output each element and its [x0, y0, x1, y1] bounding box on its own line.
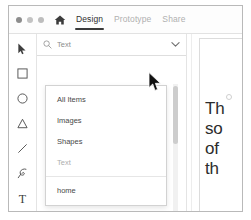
tab-design[interactable]: Design [76, 14, 103, 25]
title-bar: Design Prototype Share [9, 6, 242, 34]
artboard-text-line: Th [205, 99, 224, 119]
filter-dropdown-menu: All Items Images Shapes Text home [45, 85, 167, 206]
close-dot[interactable] [16, 17, 22, 23]
window-body: T Text [9, 34, 242, 211]
screenshot-root: Design Prototype Share [0, 0, 251, 220]
window-controls [16, 17, 44, 23]
menu-item-home[interactable]: home [46, 180, 166, 201]
artboard-text-line: of [205, 139, 224, 159]
artboard[interactable]: Th so of th [199, 38, 242, 211]
artboard-handle[interactable] [226, 94, 232, 100]
menu-item-images[interactable]: Images [46, 110, 166, 131]
panel-scrollbar[interactable] [173, 84, 178, 212]
home-icon[interactable] [53, 13, 67, 27]
pointer-tool[interactable] [15, 41, 30, 56]
design-canvas[interactable]: Th so of th [187, 34, 242, 211]
minimize-dot[interactable] [27, 17, 33, 23]
artboard-text-block[interactable]: Th so of th [205, 99, 224, 179]
search-bar[interactable]: Text [37, 34, 186, 56]
chevron-down-icon[interactable] [171, 40, 180, 49]
search-input[interactable]: Text [57, 40, 171, 49]
tab-prototype[interactable]: Prototype [114, 14, 151, 25]
tab-share[interactable]: Share [162, 14, 185, 25]
app-window: Design Prototype Share [8, 5, 243, 212]
text-tool[interactable]: T [15, 191, 30, 206]
pen-tool[interactable] [15, 166, 30, 181]
menu-item-shapes[interactable]: Shapes [46, 131, 166, 152]
maximize-dot[interactable] [38, 17, 44, 23]
canvas-guide [191, 34, 192, 211]
menu-item-all-items[interactable]: All Items [46, 89, 166, 110]
menu-divider [46, 176, 166, 177]
triangle-tool[interactable] [15, 116, 30, 131]
tool-rail: T [9, 34, 37, 211]
artboard-text-line: so [205, 119, 224, 139]
ellipse-tool[interactable] [15, 91, 30, 106]
line-tool[interactable] [15, 141, 30, 156]
scrollbar-thumb[interactable] [173, 86, 178, 144]
tab-bar: Design Prototype Share [76, 14, 186, 25]
rectangle-tool[interactable] [15, 66, 30, 81]
search-icon [43, 40, 52, 49]
artboard-text-line: th [205, 159, 224, 179]
menu-item-text[interactable]: Text [46, 152, 166, 173]
